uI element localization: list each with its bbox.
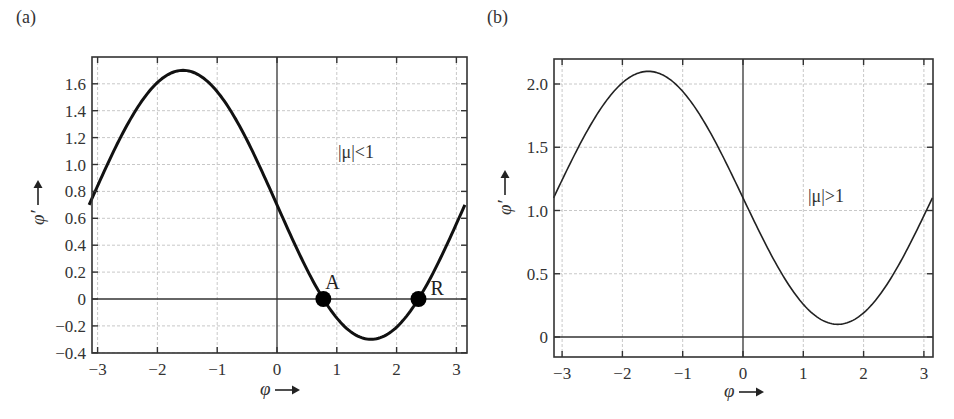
y-tick-label: 0.8 xyxy=(65,182,86,201)
x-tick-label: −3 xyxy=(89,360,107,379)
y-tick-labels-b: 00.51.01.52.0 xyxy=(527,75,548,347)
y-tick-label: 0 xyxy=(540,328,549,347)
y-tick-label: 1.0 xyxy=(65,156,86,175)
zero-axes-b xyxy=(554,59,933,357)
fixed-point-r-marker xyxy=(410,291,426,307)
x-axis-title-b: φ xyxy=(724,380,764,401)
y-tick-label: 1.2 xyxy=(65,129,86,148)
y-tick-label: 1.4 xyxy=(65,102,87,121)
right-arrow-icon xyxy=(739,388,764,397)
y-tick-label: 0.4 xyxy=(65,236,87,255)
chart-panel-a: (a) −3−2−10123 −0.4−0.200.20.40.60.81.01… xyxy=(16,7,467,399)
x-tick-label: 1 xyxy=(799,364,808,383)
x-tick-label: −1 xyxy=(674,364,692,383)
y-axis-title-a: φ′ xyxy=(27,180,48,225)
y-tick-label: 0.5 xyxy=(527,265,548,284)
svg-text:φ: φ xyxy=(260,378,271,399)
y-tick-label: −0.4 xyxy=(55,344,86,363)
svg-text:φ: φ xyxy=(724,380,735,401)
mu-condition-label-b: |μ|>1 xyxy=(808,186,844,206)
right-arrow-icon xyxy=(275,386,300,395)
y-tick-label: 0 xyxy=(78,290,87,309)
x-tick-labels-b: −3−2−10123 xyxy=(553,364,928,383)
y-tick-labels-a: −0.4−0.200.20.40.60.81.01.21.41.6 xyxy=(55,75,86,363)
svg-text:φ′: φ′ xyxy=(27,209,48,225)
fixed-point-a-label: A xyxy=(325,271,340,293)
x-tick-label: 0 xyxy=(273,360,282,379)
panel-label-a: (a) xyxy=(16,7,36,28)
x-tick-label: −1 xyxy=(208,360,226,379)
fixed-point-r-label: R xyxy=(430,277,444,299)
up-arrow-icon xyxy=(34,180,43,205)
y-tick-label: 0.6 xyxy=(65,209,86,228)
x-tick-label: 3 xyxy=(920,364,929,383)
x-tick-label: −2 xyxy=(613,364,631,383)
x-tick-label: 1 xyxy=(333,360,342,379)
mu-condition-label-a: |μ|<1 xyxy=(338,142,374,162)
svg-text:φ′: φ′ xyxy=(494,199,515,215)
x-axis-title-a: φ xyxy=(260,378,300,399)
figure-canvas: (a) −3−2−10123 −0.4−0.200.20.40.60.81.01… xyxy=(0,0,954,419)
fixed-point-a-marker xyxy=(315,291,331,307)
y-tick-label: −0.2 xyxy=(55,317,86,336)
x-tick-label: −2 xyxy=(148,360,166,379)
x-tick-label: 0 xyxy=(739,364,748,383)
y-tick-label: 1.6 xyxy=(65,75,86,94)
up-arrow-icon xyxy=(501,170,510,195)
panel-label-b: (b) xyxy=(487,7,508,28)
y-tick-label: 2.0 xyxy=(527,75,548,94)
y-tick-label: 1.5 xyxy=(527,138,548,157)
chart-panel-b: (b) −3−2−10123 00.51.01.52.0 |μ|>1 φ φ′ xyxy=(487,7,933,401)
x-tick-label: 3 xyxy=(452,360,461,379)
x-tick-labels-a: −3−2−10123 xyxy=(89,360,461,379)
x-tick-label: 2 xyxy=(392,360,401,379)
x-tick-label: −3 xyxy=(553,364,571,383)
y-axis-title-b: φ′ xyxy=(494,170,515,215)
y-tick-label: 0.2 xyxy=(65,263,86,282)
x-tick-label: 2 xyxy=(859,364,868,383)
y-tick-label: 1.0 xyxy=(527,202,548,221)
